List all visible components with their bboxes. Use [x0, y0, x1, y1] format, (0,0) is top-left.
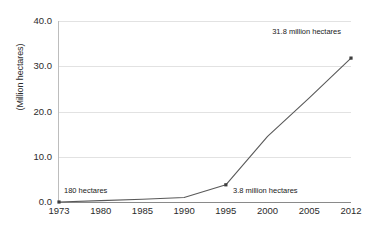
annotation-3-8-million-hectares: 3.8 million hectares	[233, 186, 298, 195]
y-tick-label: 20.0	[18, 107, 52, 117]
x-tick-label: 2012	[328, 206, 369, 216]
x-tick-label: 1985	[119, 206, 165, 216]
x-tick-label: 1990	[161, 206, 207, 216]
y-tick-label: 10.0	[18, 152, 52, 162]
data-point-marker	[349, 57, 352, 60]
annotation-180-hectares: 180 hectares	[64, 186, 107, 195]
x-tick-label: 1980	[78, 206, 124, 216]
x-tick-label: 2005	[286, 206, 332, 216]
x-tick-label: 2000	[245, 206, 291, 216]
y-axis-tick-labels: 0.010.020.030.040.0	[18, 0, 52, 239]
x-tick-label: 1973	[36, 206, 82, 216]
series-markers	[57, 57, 352, 204]
plot-area	[59, 21, 351, 202]
y-tick-label: 40.0	[18, 16, 52, 26]
annotation-31-8-million-hectares: 31.8 million hectares	[236, 27, 341, 36]
y-tick-label: 30.0	[18, 61, 52, 71]
series-line	[59, 58, 351, 202]
line-chart: (Million hectares) 0.010.020.030.040.0 1…	[0, 0, 369, 239]
data-point-marker	[57, 200, 60, 203]
gridline	[59, 202, 351, 203]
x-tick-label: 1995	[203, 206, 249, 216]
data-series	[59, 21, 351, 202]
data-point-marker	[224, 183, 227, 186]
x-axis-tick-labels: 19731980198519901995200020052012	[59, 206, 351, 226]
